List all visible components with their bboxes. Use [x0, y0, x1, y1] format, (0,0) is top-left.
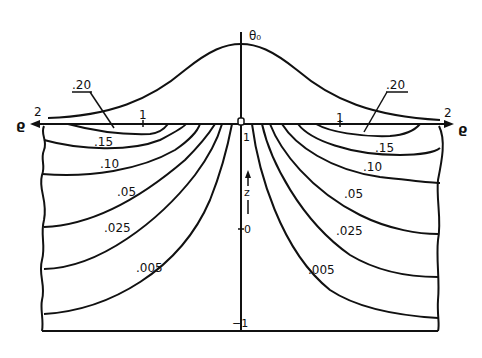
contour-label-015-right: .15: [375, 141, 394, 155]
contour-label-010-left: .10: [100, 157, 119, 171]
rho-label-left: ϱ: [16, 117, 25, 132]
contour-label-020-left: .20: [72, 78, 91, 92]
contour-label-020-right: .20: [386, 78, 405, 92]
contour-label-0025-left: .025: [104, 221, 131, 235]
contour-0005-right: [252, 124, 438, 318]
contour-label-005-right: .05: [344, 187, 363, 201]
contour-020-left: [68, 124, 168, 134]
contour-label-0005-right: .005: [308, 263, 335, 277]
tick-label-z1: 1: [243, 131, 250, 144]
tick-label-z0: 0: [244, 223, 251, 236]
contour-diagram: θ₀ ϱ ϱ z 2 1 1 2 1 0 −1 .20 .20 .15 .15 …: [0, 0, 482, 358]
theta0-profile-curve: [48, 44, 440, 120]
left-edge: [41, 126, 45, 331]
tick-label-left-2: 2: [34, 105, 42, 119]
z-label: z: [244, 186, 250, 199]
right-edge: [437, 126, 442, 331]
contour-015-right: [298, 124, 440, 155]
tick-label-right-2: 2: [444, 106, 452, 120]
arrow-right-icon: [444, 120, 454, 128]
tick-label-right-1: 1: [336, 111, 344, 125]
contour-label-0025-right: .025: [336, 224, 363, 238]
contour-label-005-left: .05: [117, 185, 136, 199]
contour-0005-left: [44, 124, 232, 314]
rho-label-right: ϱ: [458, 121, 467, 136]
contour-label-015-left: .15: [94, 135, 113, 149]
contour-label-010-right: .10: [363, 160, 382, 174]
origin-marker: [238, 118, 244, 125]
tick-label-zm1: −1: [232, 317, 248, 330]
theta0-label: θ₀: [249, 29, 261, 43]
tick-label-left-1: 1: [139, 108, 147, 122]
arrow-left-icon: [30, 120, 40, 128]
contour-label-0005-left: .005: [136, 261, 163, 275]
